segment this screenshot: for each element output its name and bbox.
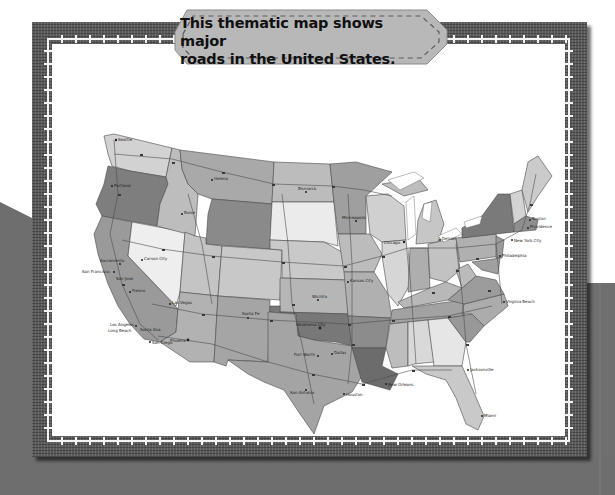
svg-text:Long Beach: Long Beach <box>108 328 132 333</box>
svg-text:Houston: Houston <box>346 392 363 397</box>
svg-text:Helena: Helena <box>214 176 229 181</box>
stitch-ticks-right <box>565 40 573 440</box>
svg-text:Bismarck: Bismarck <box>298 186 317 191</box>
caption-line-2: roads in the United States. <box>180 50 430 68</box>
svg-text:San Jose: San Jose <box>116 276 134 281</box>
svg-text:New Orleans: New Orleans <box>388 382 413 387</box>
map-paper: Seattle Portland Boise Helena Sacramento… <box>52 44 565 436</box>
svg-text:Las Vegas: Las Vegas <box>172 300 192 305</box>
svg-text:Fresno: Fresno <box>132 288 146 293</box>
svg-text:Philadelphia: Philadelphia <box>502 253 527 258</box>
svg-text:San Francisco: San Francisco <box>82 269 110 274</box>
svg-text:Oklahoma City: Oklahoma City <box>296 322 326 327</box>
svg-text:Kansas City: Kansas City <box>350 278 374 283</box>
svg-text:Jacksonville: Jacksonville <box>469 367 494 372</box>
stitch-ticks-left <box>44 40 52 440</box>
svg-text:Virginia Beach: Virginia Beach <box>506 299 535 304</box>
caption-line-1: This thematic map shows major <box>180 14 430 50</box>
svg-text:Boise: Boise <box>184 210 195 215</box>
svg-text:Santa Fe: Santa Fe <box>242 311 260 316</box>
svg-text:Minneapolis: Minneapolis <box>342 215 366 220</box>
svg-text:New York City: New York City <box>514 238 542 243</box>
svg-text:Sacramento: Sacramento <box>100 258 125 263</box>
svg-text:Chicago: Chicago <box>384 240 401 245</box>
svg-text:Los Angeles: Los Angeles <box>110 322 134 327</box>
svg-text:Dallas: Dallas <box>334 350 346 355</box>
stitch-ticks-bottom <box>49 437 568 445</box>
svg-text:Portland: Portland <box>114 183 131 188</box>
svg-text:Fort Worth: Fort Worth <box>294 352 315 357</box>
burlap-frame: Seattle Portland Boise Helena Sacramento… <box>32 22 587 457</box>
svg-text:Detroit: Detroit <box>442 236 456 241</box>
svg-text:Wichita: Wichita <box>312 294 327 299</box>
svg-text:Phoenix: Phoenix <box>170 338 187 343</box>
svg-text:Santa Ana: Santa Ana <box>140 327 161 332</box>
caption-text: This thematic map shows major roads in t… <box>180 14 430 68</box>
svg-text:Boston: Boston <box>532 216 546 221</box>
us-roads-map: Seattle Portland Boise Helena Sacramento… <box>52 44 565 436</box>
svg-text:Miami: Miami <box>484 413 496 418</box>
svg-text:Providence: Providence <box>530 224 553 229</box>
svg-text:Carson City: Carson City <box>144 256 168 261</box>
svg-text:Seattle: Seattle <box>118 137 133 142</box>
svg-text:San Antonio: San Antonio <box>290 390 315 395</box>
